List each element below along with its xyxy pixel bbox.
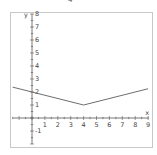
x-tick-label: 3 <box>69 121 73 129</box>
x-tick-label: 9 <box>146 121 150 129</box>
y-tick-label: 3 <box>35 75 39 83</box>
x-tick-label: 7 <box>120 121 124 129</box>
y-tick-label: 2 <box>35 88 39 96</box>
x-tick-label: 4 <box>82 121 86 129</box>
x-tick-label: 5 <box>94 121 98 129</box>
x-tick-label: 1 <box>43 121 47 129</box>
y-tick-label: 6 <box>35 36 39 44</box>
x-tick-label: 6 <box>107 121 111 129</box>
y-tick-label: 1 <box>35 101 39 109</box>
y-tick-label: 4 <box>35 62 39 70</box>
series-line <box>13 87 148 105</box>
y-axis-label: y <box>24 11 28 19</box>
x-axis-label: x <box>145 109 149 117</box>
x-tick-label: 8 <box>133 121 137 129</box>
y-tick-label: 8 <box>35 10 39 18</box>
y-tick-label: -1 <box>35 127 41 135</box>
line-chart: 12345678987654321-1xy <box>0 0 157 155</box>
x-tick-label: 2 <box>56 121 60 129</box>
y-tick-label: 5 <box>35 49 39 57</box>
y-tick-label: 7 <box>35 23 39 31</box>
